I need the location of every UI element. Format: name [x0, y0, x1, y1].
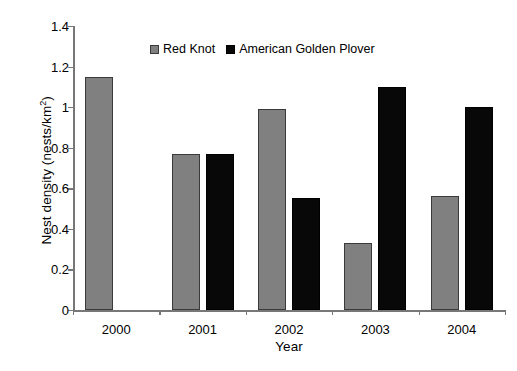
legend-swatch-icon	[150, 45, 159, 54]
x-axis-tick	[419, 310, 420, 315]
y-axis-tick-label: 1.2	[29, 59, 69, 74]
x-axis-line	[73, 310, 505, 312]
bar	[258, 109, 286, 310]
bar	[172, 154, 200, 310]
y-axis-tick-label: 0.4	[29, 221, 69, 236]
chart-legend: Red KnotAmerican Golden Plover	[150, 42, 375, 56]
legend-entry: Red Knot	[150, 42, 215, 56]
y-axis-title: Nest density (nests/km2)	[38, 45, 55, 295]
y-axis-tick-label: 0.8	[29, 140, 69, 155]
x-axis-tick-label: 2004	[447, 322, 476, 337]
x-axis-tick	[159, 310, 160, 315]
bar	[378, 87, 406, 310]
x-axis-tick	[332, 310, 333, 315]
bar	[206, 154, 234, 310]
x-axis-title: Year	[73, 339, 505, 354]
bar	[465, 107, 493, 310]
y-axis-tick-label: 0.6	[29, 181, 69, 196]
x-axis-tick-label: 2003	[361, 322, 390, 337]
chart-figure: Nest density (nests/km2) 00.20.40.60.811…	[0, 0, 517, 371]
y-axis-tick-label: 1.4	[29, 19, 69, 34]
y-axis-tick-label: 0.2	[29, 262, 69, 277]
y-axis-tick-label: 1	[29, 100, 69, 115]
x-axis-tick	[73, 310, 74, 315]
legend-swatch-icon	[226, 45, 235, 54]
bar	[292, 198, 320, 310]
x-axis-tick-label: 2001	[188, 322, 217, 337]
x-axis-tick-label: 2000	[102, 322, 131, 337]
x-axis-tick	[505, 310, 506, 315]
x-axis-tick	[246, 310, 247, 315]
legend-label: Red Knot	[163, 42, 215, 56]
legend-entry: American Golden Plover	[226, 42, 374, 56]
y-axis-tick-label: 0	[29, 303, 69, 318]
legend-label: American Golden Plover	[239, 42, 374, 56]
y-axis-line	[73, 26, 75, 310]
plot-area: 00.20.40.60.811.21.4 2000200120022003200…	[73, 26, 505, 310]
bar	[344, 243, 372, 310]
x-axis-tick-label: 2002	[275, 322, 304, 337]
bar	[85, 77, 113, 310]
bar	[431, 196, 459, 310]
